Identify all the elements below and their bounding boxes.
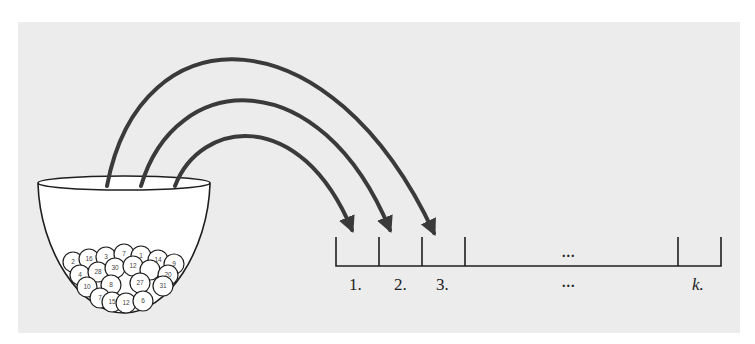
svg-text:3: 3 (104, 253, 108, 260)
svg-text:30: 30 (111, 264, 119, 271)
svg-text:12: 12 (129, 262, 137, 269)
svg-text:15: 15 (108, 298, 116, 305)
svg-text:6: 6 (141, 297, 145, 304)
svg-text:27: 27 (136, 279, 144, 286)
svg-text:8: 8 (109, 281, 113, 288)
slot-label-k: k. (692, 276, 704, 293)
svg-text:20: 20 (164, 271, 172, 278)
svg-text:7: 7 (98, 294, 102, 301)
svg-text:4: 4 (78, 271, 82, 278)
svg-text:31: 31 (159, 282, 167, 289)
slot-label-2: 2. (394, 276, 407, 293)
slot-label-1: 1. (349, 276, 362, 293)
svg-text:1: 1 (139, 252, 143, 259)
svg-text:7: 7 (122, 250, 126, 257)
svg-text:9: 9 (172, 260, 176, 267)
svg-text:14: 14 (154, 256, 162, 263)
svg-text:2: 2 (71, 258, 75, 265)
svg-text:16: 16 (85, 255, 93, 262)
slot-label-ellipsis: ... (562, 276, 576, 290)
svg-text:12: 12 (122, 299, 130, 306)
urn-sampling-diagram: 2 16 3 7 1 14 9 4 28 30 12 20 10 8 27 31… (0, 0, 755, 344)
svg-text:28: 28 (94, 268, 102, 275)
svg-text:10: 10 (83, 283, 91, 290)
slot-label-3: 3. (436, 276, 449, 293)
slot-ellipsis: ... (562, 246, 576, 260)
slot-array (336, 237, 721, 266)
